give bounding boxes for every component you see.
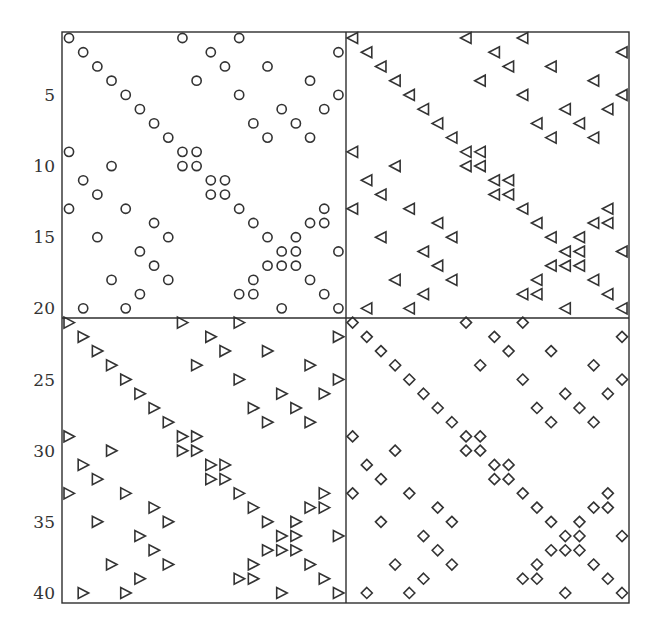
triangle-right-marker — [305, 502, 316, 513]
triangle-right-marker — [220, 459, 231, 470]
triangle-left-marker — [531, 217, 542, 228]
sparsity-plot: 510152025303540 — [0, 0, 664, 640]
circle-marker — [220, 176, 229, 185]
circle-marker — [277, 105, 286, 114]
circle-marker — [178, 33, 187, 42]
y-tick-label: 35 — [33, 512, 55, 532]
triangle-left-marker — [418, 289, 429, 300]
triangle-left-marker — [531, 289, 542, 300]
diamond-marker — [503, 474, 514, 485]
diamond-marker — [418, 573, 429, 584]
diamond-marker — [517, 374, 528, 385]
diamond-marker — [531, 402, 542, 413]
triangle-right-marker — [333, 531, 344, 542]
triangle-right-marker — [277, 531, 288, 542]
circle-marker — [235, 290, 244, 299]
triangle-left-marker — [517, 33, 528, 44]
diamond-marker — [390, 559, 401, 570]
diamond-marker — [531, 573, 542, 584]
triangle-right-marker — [263, 346, 274, 357]
circle-marker — [121, 90, 130, 99]
circle-marker — [277, 247, 286, 256]
diamond-marker — [588, 559, 599, 570]
diamond-marker — [617, 587, 628, 598]
circle-marker — [93, 62, 102, 71]
circle-marker — [64, 204, 73, 213]
triangle-right-marker — [277, 545, 288, 556]
triangle-left-marker — [446, 274, 457, 285]
triangle-left-marker — [489, 47, 500, 58]
triangle-left-marker — [390, 75, 401, 86]
diamond-marker — [446, 516, 457, 527]
circle-marker — [235, 204, 244, 213]
diamond-marker — [546, 545, 557, 556]
triangle-right-marker — [135, 531, 146, 542]
diamond-marker — [432, 402, 443, 413]
diamond-marker — [602, 388, 613, 399]
diamond-marker — [446, 417, 457, 428]
triangle-right-marker — [248, 502, 259, 513]
triangle-left-marker — [602, 289, 613, 300]
circle-marker — [305, 275, 314, 284]
diamond-marker — [588, 360, 599, 371]
triangle-left-marker — [475, 146, 486, 157]
circle-marker — [334, 90, 343, 99]
triangle-left-marker — [531, 274, 542, 285]
triangle-left-marker — [432, 217, 443, 228]
y-tick-label: 15 — [33, 227, 55, 247]
circle-marker — [305, 218, 314, 227]
diamond-marker — [461, 431, 472, 442]
triangle-left-marker — [461, 33, 472, 44]
triangle-right-marker — [135, 573, 146, 584]
y-tick-label: 20 — [33, 298, 55, 318]
circle-marker — [320, 204, 329, 213]
triangle-left-marker — [375, 232, 386, 243]
circle-marker — [263, 62, 272, 71]
triangle-left-marker — [418, 104, 429, 115]
triangle-right-marker — [177, 445, 188, 456]
circle-marker — [93, 190, 102, 199]
triangle-left-marker — [602, 203, 613, 214]
circle-marker — [107, 275, 116, 284]
diamond-marker — [475, 360, 486, 371]
triangle-left-marker — [361, 47, 372, 58]
diamond-marker — [489, 459, 500, 470]
circle-marker — [305, 133, 314, 142]
circle-marker — [320, 218, 329, 227]
triangle-right-marker — [248, 573, 259, 584]
circle-marker — [206, 176, 215, 185]
diamond-marker — [560, 531, 571, 542]
triangle-right-marker — [121, 488, 132, 499]
triangle-right-marker — [248, 402, 259, 413]
circle-marker — [249, 218, 258, 227]
triangle-right-marker — [234, 374, 245, 385]
triangle-right-marker — [333, 331, 344, 342]
series-circle — [64, 33, 343, 313]
diamond-marker — [475, 445, 486, 456]
triangle-right-marker — [78, 459, 89, 470]
triangle-left-marker — [560, 303, 571, 314]
triangle-left-marker — [588, 75, 599, 86]
diamond-marker — [617, 331, 628, 342]
diamond-marker — [390, 360, 401, 371]
triangle-right-marker — [92, 474, 103, 485]
triangle-right-marker — [192, 360, 203, 371]
diamond-marker — [574, 516, 585, 527]
diamond-marker — [418, 531, 429, 542]
circle-marker — [192, 76, 201, 85]
triangle-right-marker — [92, 516, 103, 527]
circle-marker — [263, 133, 272, 142]
triangle-left-marker — [404, 303, 415, 314]
triangle-left-marker — [588, 217, 599, 228]
triangle-right-marker — [135, 388, 146, 399]
circle-marker — [277, 261, 286, 270]
triangle-right-marker — [263, 516, 274, 527]
circle-marker — [291, 247, 300, 256]
triangle-left-marker — [503, 175, 514, 186]
triangle-right-marker — [291, 545, 302, 556]
circle-marker — [135, 105, 144, 114]
triangle-left-marker — [390, 161, 401, 172]
circle-marker — [263, 233, 272, 242]
circle-marker — [249, 119, 258, 128]
triangle-left-marker — [461, 161, 472, 172]
